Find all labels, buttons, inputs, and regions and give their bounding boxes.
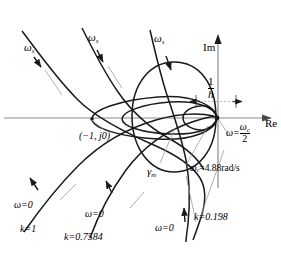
curve-arrow-k0198-lower: [184, 208, 185, 222]
label-omega-c-value: ωc=4.88rad/s: [190, 164, 240, 174]
label-omega-s-mid: ωs: [88, 32, 98, 45]
label-critical-point: (−1, j0): [79, 131, 110, 141]
label-gamma-m: γm: [147, 166, 156, 179]
curve-arrow-k07584-lower: [106, 181, 112, 193]
label-re-axis: Re: [265, 118, 277, 129]
curve-arrow-k1-lower: [30, 178, 38, 190]
curve-arrow-k07584-upper: [97, 50, 103, 62]
nyquist-figure: ωs ωs ωs Im Re 1 h (−1, j0) γm ωc=4.88ra…: [0, 0, 281, 254]
label-gain-margin: 1 h: [208, 76, 214, 100]
label-k-1: k=1: [20, 224, 36, 234]
curve-arrow-k1-upper: [34, 57, 41, 67]
nyquist-curve-k1-branch: [24, 114, 214, 232]
label-omega-zero-left: ω=0: [14, 200, 33, 210]
label-omega-s-left: ωs: [24, 42, 34, 55]
label-im-axis: Im: [203, 42, 215, 53]
origin-dot: [215, 116, 220, 121]
label-k-07584: k=0.7584: [64, 232, 103, 242]
label-k-0198: k=0.198: [194, 212, 228, 222]
label-omega-zero-mid: ω=0: [85, 209, 104, 219]
label-omega-half: ω= ωc 2: [226, 122, 250, 145]
label-omega-zero-right: ω=0: [155, 223, 174, 233]
label-omega-s-right: ωs: [154, 33, 164, 46]
